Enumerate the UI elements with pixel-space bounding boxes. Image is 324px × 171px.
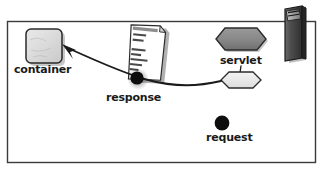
label-request: request <box>206 132 252 143</box>
node-request-dot[interactable] <box>215 116 230 131</box>
response-dot-shape <box>130 71 143 84</box>
node-container[interactable] <box>26 29 65 66</box>
servlet-instance-hex-shape <box>221 72 261 88</box>
node-servlet-instance[interactable] <box>221 72 261 88</box>
diagram-vector-layer <box>0 0 324 171</box>
node-response-dot[interactable] <box>127 68 149 90</box>
node-server-tower[interactable] <box>285 6 306 63</box>
container-shape <box>26 29 62 63</box>
node-servlet[interactable] <box>216 28 268 52</box>
label-response: response <box>106 92 161 103</box>
server-tower-side <box>302 6 306 59</box>
request-dot-shape <box>215 116 230 131</box>
diagram-canvas: container response servlet request <box>0 0 324 171</box>
label-container: container <box>14 64 71 75</box>
label-servlet: servlet <box>220 55 262 66</box>
servlet-hex-shape <box>216 28 266 50</box>
